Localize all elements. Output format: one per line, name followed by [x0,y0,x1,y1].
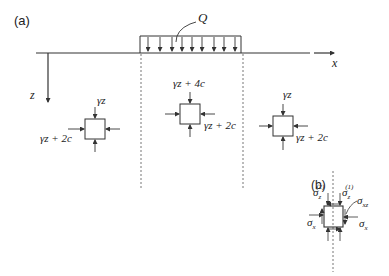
bearing-capacity-diagram: (a) x z Q γz γz + 2c [0,0,389,276]
right-top-stress: γz [283,88,292,100]
middle-top-stress: γz + 4c [173,77,205,89]
sigma-z2-label: σz(2) [313,183,325,201]
left-side-stress: γz + 2c [40,132,72,144]
sigma-z1-label: σz(1) [342,183,354,201]
sigma-x-left-label: σx [307,216,316,231]
load-label: Q [198,10,208,25]
load-leader-line [176,22,196,42]
distributed-load [140,22,241,53]
right-soil-element [259,104,308,150]
right-side-stress: γz + 2c [296,131,328,143]
x-axis-label: x [331,56,338,70]
sigma-x-right-label: σx [359,217,368,232]
sigma-xz-label: σxz [357,194,369,209]
middle-side-stress: γz + 2c [204,119,236,131]
z-axis-label: z [29,88,35,102]
left-soil-element [68,107,120,152]
panel-a-label: (a) [14,13,30,28]
left-top-stress: γz [97,94,106,106]
